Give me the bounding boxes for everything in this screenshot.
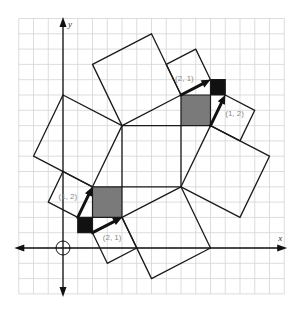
lower-black-square	[78, 217, 93, 232]
axes: x y	[14, 17, 287, 297]
vector-shaft	[181, 84, 203, 95]
grid-lines	[19, 19, 285, 294]
vector-label: (1, 2)	[59, 192, 78, 201]
upper-black-square	[211, 80, 226, 95]
vector-label: (2, 1)	[175, 74, 194, 83]
x-axis-arrow-left-icon	[14, 245, 24, 252]
vector-label: (2, 1)	[103, 233, 122, 242]
upper-vector-2-1: (2, 1)	[175, 74, 210, 95]
top-small-square	[166, 49, 210, 95]
vector-label: (1, 2)	[225, 109, 244, 118]
x-axis-label: x	[277, 233, 282, 243]
vector-shaft	[93, 222, 115, 233]
y-axis-arrow-down-icon	[60, 287, 67, 297]
upper-gray-square	[181, 95, 211, 126]
x-axis-arrow-right-icon	[277, 245, 287, 252]
y-axis-label: y	[67, 19, 72, 29]
lower-gray-square	[93, 187, 123, 218]
diagram-canvas: x y (1, 2)(2, 1)(2, 1)(1, 2)	[0, 0, 299, 313]
lattice-diagram: x y (1, 2)(2, 1)(2, 1)(1, 2)	[0, 0, 299, 313]
vector-shaft	[78, 195, 89, 217]
vector-shaft	[211, 103, 222, 125]
